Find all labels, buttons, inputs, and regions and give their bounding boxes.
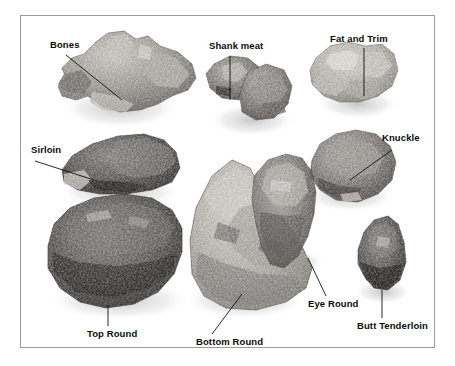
cut-shank-meat — [206, 56, 292, 120]
cut-fat-and-trim — [310, 42, 398, 102]
label-sirloin: Sirloin — [31, 145, 61, 155]
cut-butt-tenderloin — [358, 216, 406, 290]
label-knuckle: Knuckle — [382, 133, 420, 143]
label-fat-and-trim: Fat and Trim — [330, 34, 388, 44]
cut-eye-round — [252, 154, 316, 268]
photo-layer — [0, 0, 455, 366]
beef-cuts-figure: Bones Shank meat Fat and Trim Knuckle Si… — [0, 0, 455, 366]
label-bones: Bones — [50, 40, 80, 50]
label-top-round: Top Round — [87, 329, 137, 339]
label-shank-meat: Shank meat — [209, 41, 263, 51]
cut-bottom-round — [190, 160, 312, 310]
label-butt-tenderloin: Butt Tenderloin — [357, 321, 428, 331]
cut-top-round — [48, 194, 182, 308]
label-eye-round: Eye Round — [308, 299, 359, 309]
cut-sirloin — [62, 134, 180, 194]
cut-shadows — [50, 88, 411, 320]
label-bottom-round: Bottom Round — [196, 337, 263, 347]
cuts-illustration — [0, 0, 455, 366]
